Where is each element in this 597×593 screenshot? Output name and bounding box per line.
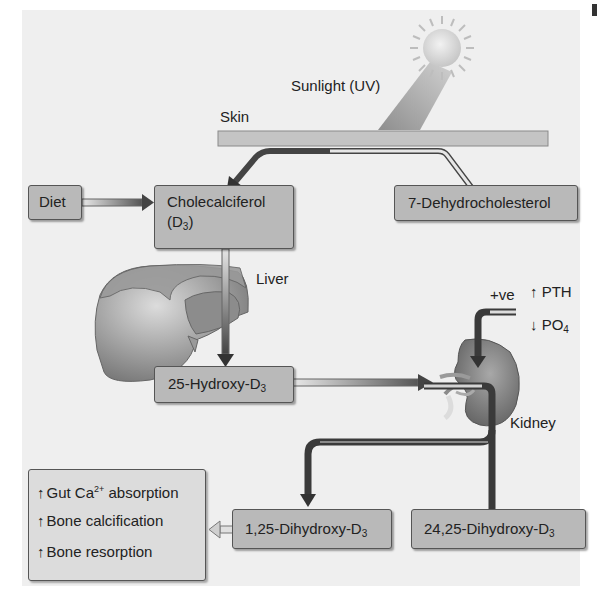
- sunlight-label: Sunlight (UV): [291, 77, 380, 94]
- cholecalciferol-text: Cholecalciferol: [167, 193, 265, 210]
- box-24-25-dihydroxy-d3: 24,25-Dihydroxy-D3: [411, 509, 586, 549]
- effect-bone-resorption: ↑Bone resorption: [37, 537, 205, 568]
- positive-effect-label: +ve: [490, 286, 515, 303]
- effects-box: ↑Gut Ca2+ absorption ↑Bone calcification…: [28, 469, 206, 581]
- liver-label: Liver: [256, 270, 289, 287]
- box-diet: Diet: [28, 185, 82, 220]
- po4-subscript: 4: [563, 324, 569, 335]
- hydroxy25-text: 25-Hydroxy-D: [168, 375, 261, 392]
- pth-text: PTH: [542, 283, 572, 300]
- cholecalciferol-d3: (D3): [167, 213, 193, 230]
- po4-label: ↓ PO4: [530, 316, 569, 335]
- skin-label: Skin: [220, 108, 249, 125]
- dihydroxy125-text: 1,25-Dihydroxy-D: [245, 520, 362, 537]
- box-cholecalciferol: Cholecalciferol (D3): [154, 185, 294, 249]
- arrow-diet-to-cholecalciferol: [82, 194, 154, 211]
- box-1-25-dihydroxy-d3: 1,25-Dihydroxy-D3: [232, 509, 392, 549]
- up-arrow-icon: ↑: [37, 512, 45, 529]
- up-arrow-icon: ↑: [37, 543, 45, 560]
- po4-text: PO: [542, 316, 564, 333]
- dehydrocholesterol-text: 7-Dehydrocholesterol: [408, 194, 551, 211]
- dihydroxy2425-text: 24,25-Dihydroxy-D: [424, 520, 549, 537]
- uv-beam: [378, 62, 452, 130]
- up-arrow-icon: ↑: [37, 484, 45, 501]
- box-25-hydroxy-d3: 25-Hydroxy-D3: [154, 366, 294, 403]
- down-arrow-icon: ↓: [530, 316, 538, 333]
- effect-bone-calcification: ↑Bone calcification: [37, 506, 205, 537]
- skin-band: [218, 131, 548, 146]
- arrow-to-effects: [209, 521, 234, 538]
- box-7-dehydrocholesterol: 7-Dehydrocholesterol: [394, 185, 578, 221]
- kidney-label: Kidney: [510, 414, 556, 431]
- diet-text: Diet: [39, 193, 66, 210]
- arrow-25-hydroxy-to-kidney: [293, 374, 433, 391]
- up-arrow-icon: ↑: [530, 283, 538, 300]
- pth-label: ↑ PTH: [530, 283, 572, 300]
- effect-gut-calcium-absorption: ↑Gut Ca2+ absorption: [37, 475, 205, 506]
